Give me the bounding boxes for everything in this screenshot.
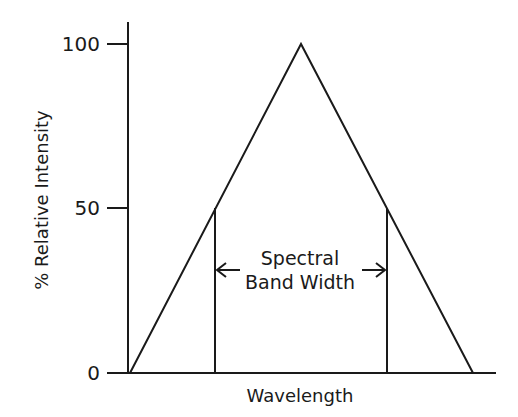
left-arrow-icon xyxy=(217,263,240,277)
y-tick-label-50: 50 xyxy=(75,196,100,220)
annotation-line-2: Band Width xyxy=(245,271,355,293)
y-axis-label: % Relative Intensity xyxy=(31,110,52,290)
right-arrow-icon xyxy=(362,263,385,277)
band-profile-curve xyxy=(130,44,473,373)
y-tick-label-0: 0 xyxy=(87,361,100,385)
y-tick-label-100: 100 xyxy=(62,32,100,56)
spectral-bandwidth-diagram: 100 50 0 % Relative Intensity Wavelength… xyxy=(0,0,518,417)
annotation-line-1: Spectral xyxy=(261,247,339,269)
x-axis-label: Wavelength xyxy=(247,385,354,406)
